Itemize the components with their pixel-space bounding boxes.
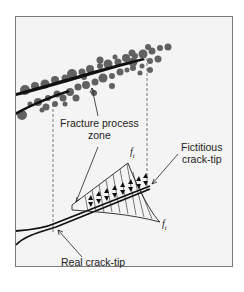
ft-top-label: ft <box>130 146 135 160</box>
bottom-lower-crack <box>16 189 150 245</box>
real-tip-leader <box>58 230 82 257</box>
fictitious-label-line1: Fictitious <box>181 141 222 153</box>
fpz-label-line1: Fracture process <box>60 117 139 129</box>
fracture-process-zone-label: Fracture process zone <box>60 117 139 141</box>
upper-crack-face <box>16 58 145 96</box>
fpz-label-line2: zone <box>88 129 111 141</box>
real-crack-tip-label: Real crack-tip <box>61 256 125 268</box>
ft-bottom-label: ft <box>162 218 167 232</box>
fictitious-crack-tip-label: Fictitious crack-tip <box>181 141 222 165</box>
fictitious-tip-leader <box>152 154 178 184</box>
bottom-upper-crack <box>16 186 150 231</box>
ft-top-subscript: t <box>133 152 135 160</box>
fictitious-label-line2: crack-tip <box>182 153 222 165</box>
ft-bottom-subscript: t <box>165 224 167 232</box>
stress-envelope <box>72 163 160 222</box>
aggregate-particles <box>17 44 172 121</box>
